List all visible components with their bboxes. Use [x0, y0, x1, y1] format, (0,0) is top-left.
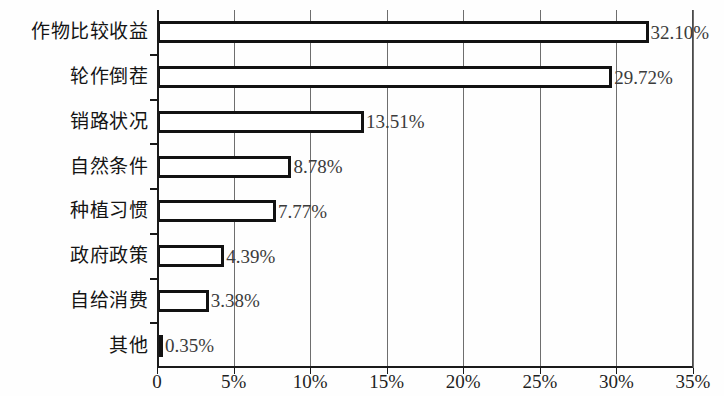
bar	[157, 200, 276, 222]
x-axis-labels: 05%10%15%20%25%30%35%	[157, 372, 693, 396]
x-tick-label: 5%	[221, 372, 246, 392]
bar-row: 13.51%	[157, 110, 424, 134]
x-tick-label: 30%	[599, 372, 634, 392]
category-axis: 作物比较收益轮作倒茬销路状况自然条件种植习惯政府政策自给消费其他	[0, 0, 152, 396]
x-tick-label: 20%	[446, 372, 481, 392]
bar-row: 32.10%	[157, 20, 709, 44]
plot-area: 32.10%29.72%13.51%8.78%7.77%4.39%3.38%0.…	[157, 10, 693, 368]
y-tick-6	[150, 278, 157, 280]
bar-value-label: 3.38%	[211, 291, 260, 310]
category-label: 轮作倒茬	[70, 67, 148, 87]
category-label: 种植习惯	[70, 201, 148, 221]
category-label: 其他	[109, 336, 148, 356]
bar-row: 7.77%	[157, 199, 327, 223]
gridline-10pct	[310, 10, 311, 368]
x-tick-label: 25%	[522, 372, 557, 392]
gridline-35pct	[693, 10, 694, 368]
bar	[157, 111, 364, 133]
category-label: 作物比较收益	[31, 22, 148, 42]
gridline-5pct	[234, 10, 235, 368]
bar-row: 3.38%	[157, 289, 260, 313]
bar-value-label: 8.78%	[293, 157, 342, 176]
bar-row: 8.78%	[157, 155, 343, 179]
gridline-30pct	[616, 10, 617, 368]
bar	[157, 21, 649, 43]
bar-row: 4.39%	[157, 244, 275, 268]
gridline-25pct	[540, 10, 541, 368]
bar-value-label: 13.51%	[366, 112, 425, 131]
y-tick-2	[150, 99, 157, 101]
bar-chart: 作物比较收益轮作倒茬销路状况自然条件种植习惯政府政策自给消费其他 32.10%2…	[0, 0, 724, 396]
bar-row: 29.72%	[157, 65, 673, 89]
y-tick-7	[150, 322, 157, 324]
category-label: 自然条件	[70, 157, 148, 177]
x-tick-label: 35%	[676, 372, 711, 392]
y-tick-5	[150, 233, 157, 235]
category-label: 自给消费	[70, 291, 148, 311]
bar-value-label: 7.77%	[278, 202, 327, 221]
x-tick-label: 0	[152, 372, 162, 392]
gridline-15pct	[387, 10, 388, 368]
bar	[157, 156, 291, 178]
bar	[157, 335, 163, 357]
y-tick-1	[150, 54, 157, 56]
x-tick-label: 15%	[369, 372, 404, 392]
category-label: 销路状况	[70, 112, 148, 132]
bar-value-label: 29.72%	[614, 68, 673, 87]
bar-value-label: 4.39%	[226, 247, 275, 266]
y-tick-3	[150, 143, 157, 145]
bar-row: 0.35%	[157, 334, 214, 358]
x-tick-label: 10%	[293, 372, 328, 392]
gridline-20pct	[463, 10, 464, 368]
plot-frame	[157, 10, 693, 368]
bar-value-label: 0.35%	[165, 336, 214, 355]
bar	[157, 290, 209, 312]
gridline-0	[157, 10, 158, 368]
bar	[157, 245, 224, 267]
category-label: 政府政策	[70, 246, 148, 266]
bar-value-label: 32.10%	[651, 23, 710, 42]
y-tick-4	[150, 188, 157, 190]
bar	[157, 66, 612, 88]
